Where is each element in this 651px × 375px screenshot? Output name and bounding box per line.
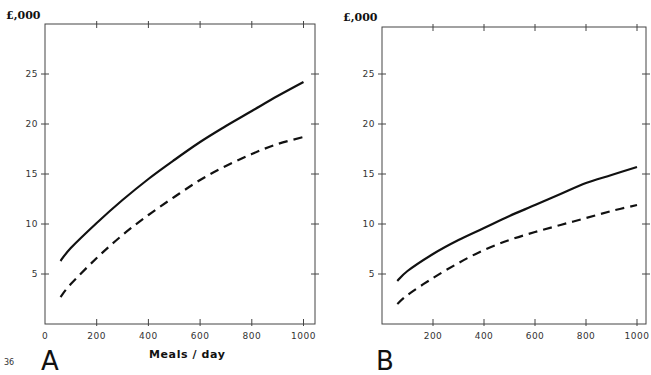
y-tick-label: 5: [369, 269, 375, 279]
plot-lines-b: [397, 167, 637, 304]
chart-panel-b: £,000 510152025 2004006008001000 B: [343, 11, 650, 375]
y-unit-label-a: £,000: [6, 9, 41, 22]
panel-letter-a: A: [41, 346, 59, 375]
dashed-line: [61, 137, 304, 297]
x-tick-label: 800: [242, 331, 261, 341]
page-number: 36: [4, 358, 14, 367]
x-tick-label: 0: [42, 331, 48, 341]
y-tick-label: 15: [26, 169, 38, 179]
y-tick-label: 5: [32, 269, 38, 279]
x-tick-label: 400: [475, 331, 494, 341]
y-tick-label: 10: [363, 219, 375, 229]
x-tick-label: 800: [577, 331, 596, 341]
y-tick-label: 25: [26, 69, 38, 79]
x-tick-label: 600: [526, 331, 545, 341]
panel-letter-b: B: [376, 346, 394, 375]
x-axis-ticks-b: 2004006008001000: [424, 24, 650, 341]
y-tick-label: 25: [363, 69, 375, 79]
y-unit-label-b: £,000: [343, 11, 378, 24]
y-tick-label: 10: [26, 219, 38, 229]
solid-line: [397, 167, 637, 281]
plot-lines-a: [61, 82, 304, 297]
y-tick-label: 20: [363, 119, 375, 129]
x-tick-label: 200: [87, 331, 106, 341]
x-tick-label: 1000: [625, 331, 650, 341]
plot-frame-a: [45, 24, 315, 324]
chart-panel-a: £,000 510152025 02004006008001000 Meals …: [6, 9, 319, 375]
x-axis-ticks-a: 02004006008001000: [42, 21, 316, 341]
y-axis-ticks-b: 510152025: [363, 69, 650, 279]
y-tick-label: 15: [363, 169, 375, 179]
y-tick-label: 20: [26, 119, 38, 129]
figure: £,000 510152025 02004006008001000 Meals …: [0, 0, 651, 375]
x-tick-label: 600: [191, 331, 210, 341]
x-axis-label-a: Meals / day: [149, 348, 226, 361]
solid-line: [61, 82, 304, 261]
y-axis-ticks-a: 510152025: [26, 69, 319, 279]
x-tick-label: 400: [139, 331, 158, 341]
x-tick-label: 1000: [291, 331, 316, 341]
x-tick-label: 200: [424, 331, 443, 341]
